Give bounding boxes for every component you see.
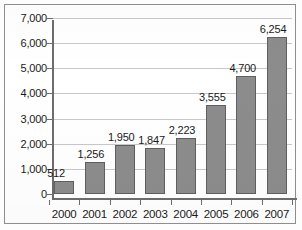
y-axis-labels: 01,0002,0003,0004,0005,0006,0007,000 (5, 5, 47, 230)
x-axis-tick-5 (201, 200, 202, 205)
x-axis-line (52, 198, 297, 200)
y-axis-label-2000: 2,000 (7, 139, 47, 150)
x-axis-tick-0 (49, 200, 50, 205)
bar-2001 (85, 162, 105, 194)
x-axis-label-2007: 2007 (262, 208, 292, 220)
plot-area (49, 18, 292, 194)
x-axis-tick-2 (110, 200, 111, 205)
x-axis-label-2003: 2003 (140, 208, 170, 220)
bar-value-label-2002: 1,950 (108, 132, 135, 143)
x-axis-label-2004: 2004 (171, 208, 201, 220)
chart-frame-border: 01,0002,0003,0004,0005,0006,0007,000 512… (4, 4, 296, 224)
y-axis-label-3000: 3,000 (7, 114, 47, 125)
x-axis-tick-4 (171, 200, 172, 205)
x-axis-tick-7 (262, 200, 263, 205)
y-axis-label-0: 0 (7, 189, 47, 200)
bar-2004 (176, 138, 196, 194)
gridline-6000 (49, 43, 292, 44)
y-axis-label-6000: 6,000 (7, 38, 47, 49)
bar-value-label-2000: 512 (47, 168, 65, 179)
bar-2005 (206, 105, 226, 194)
y-axis-label-4000: 4,000 (7, 88, 47, 99)
bar-value-label-2007: 6,254 (260, 24, 287, 35)
bar-value-label-2005: 3,555 (199, 92, 226, 103)
bar-2007 (267, 37, 287, 194)
x-axis-label-2001: 2001 (79, 208, 109, 220)
bar-2002 (115, 145, 135, 194)
x-axis-tick-6 (231, 200, 232, 205)
x-axis-label-2000: 2000 (49, 208, 79, 220)
x-axis-tick-3 (140, 200, 141, 205)
x-axis-label-2006: 2006 (231, 208, 261, 220)
bar-value-label-2006: 4,700 (229, 63, 256, 74)
x-axis-label-2005: 2005 (201, 208, 231, 220)
x-axis-tick-1 (79, 200, 80, 205)
y-axis-label-1000: 1,000 (7, 164, 47, 175)
bar-2003 (145, 148, 165, 194)
bar-chart-figure: 01,0002,0003,0004,0005,0006,0007,000 512… (0, 0, 302, 230)
y-axis-label-7000: 7,000 (7, 13, 47, 24)
x-axis-label-2002: 2002 (110, 208, 140, 220)
y-axis-label-5000: 5,000 (7, 63, 47, 74)
x-axis-tick-end (292, 200, 293, 205)
bar-value-label-2001: 1,256 (78, 149, 105, 160)
bar-2000 (54, 181, 74, 194)
y-axis-tick-7000 (47, 18, 53, 19)
bar-2006 (236, 76, 256, 194)
gridline-7000 (49, 18, 292, 19)
bar-value-label-2004: 2,223 (169, 125, 196, 136)
bar-value-label-2003: 1,847 (138, 135, 165, 146)
